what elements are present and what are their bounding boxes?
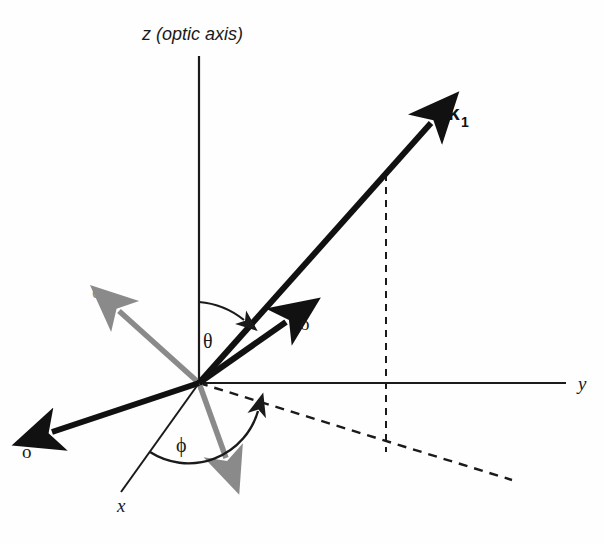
phi-angle-arc: [150, 411, 258, 463]
o-vector-lower-label: o: [22, 441, 32, 462]
e-vector-lower-label: e: [231, 463, 239, 484]
figure-container: z (optic axis) y x k 1 o o e e θ ϕ: [0, 0, 604, 543]
theta-angle-label: θ: [203, 330, 213, 352]
k1-vector-arrow: [199, 123, 431, 383]
z-axis-label: z (optic axis): [141, 24, 243, 44]
x-axis-line: [121, 383, 199, 492]
phi-angle-label: ϕ: [176, 434, 187, 457]
optic-axis-diagram: z (optic axis) y x k 1 o o e e θ ϕ: [0, 0, 604, 543]
e-vector-lower-right-arrow: [199, 383, 226, 458]
e-vector-upper-label: e: [92, 281, 100, 302]
k1-vector-label: k: [448, 101, 460, 124]
label-group: z (optic axis) y x k 1 o o e e θ ϕ: [22, 24, 587, 516]
e-vector-upper-left-arrow: [119, 311, 199, 383]
theta-angle-arc: [199, 302, 244, 320]
x-axis-label: x: [116, 495, 126, 516]
o-vector-upper-label: o: [300, 313, 310, 334]
y-axis-label: y: [576, 373, 587, 394]
azimuth-projection-dashed-line: [199, 383, 512, 480]
k-and-o-vectors: [52, 123, 431, 432]
o-vector-lower-arrow: [52, 383, 199, 432]
k1-vector-subscript: 1: [461, 114, 469, 130]
